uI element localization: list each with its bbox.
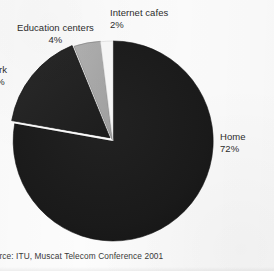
pie-label-work-name: /ork <box>0 64 7 75</box>
pie-label-work: /ork 2% <box>0 64 7 87</box>
pie-label-education-centers-name: Education centers <box>17 22 94 33</box>
pie-label-work-value: 2% <box>0 76 7 88</box>
pie-label-internet-cafes: Internet cafes 2% <box>110 7 168 30</box>
scan-edge-shadow <box>0 267 274 271</box>
source-note: ource: ITU, Muscat Telecom Conference 20… <box>0 251 163 261</box>
pie-label-home: Home 72% <box>220 131 246 154</box>
pie-label-education-centers: Education centers 4% <box>17 22 94 45</box>
pie-label-internet-cafes-name: Internet cafes <box>110 7 168 18</box>
pie-label-education-centers-value: 4% <box>17 34 94 46</box>
pie-label-internet-cafes-value: 2% <box>110 19 168 31</box>
pie-label-home-value: 72% <box>220 143 246 155</box>
pie-chart-figure: Internet cafes 2% Education centers 4% /… <box>0 0 274 271</box>
pie-label-home-name: Home <box>220 131 246 142</box>
